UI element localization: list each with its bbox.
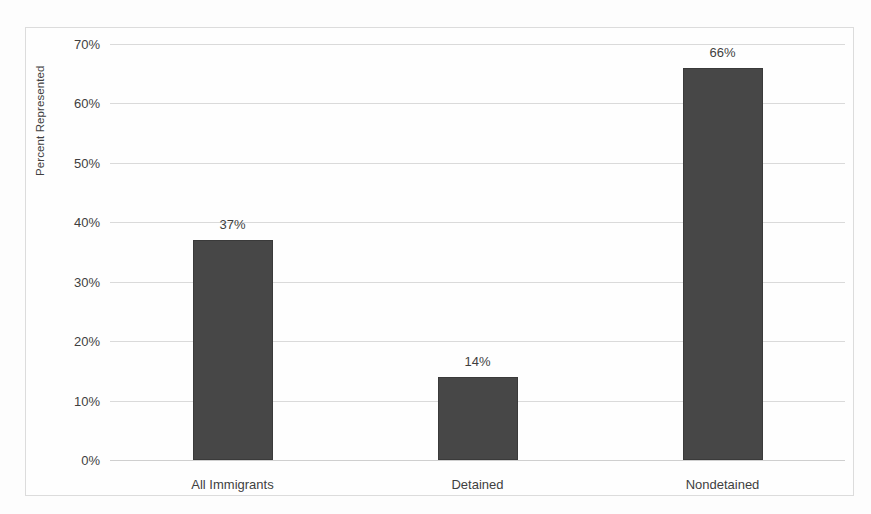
- bar-value-label: 66%: [663, 46, 783, 59]
- y-axis-tick-label: 50%: [44, 157, 100, 170]
- bar-value-label: 37%: [173, 218, 293, 231]
- bar-detained[interactable]: [438, 377, 518, 460]
- category-label: Nondetained: [633, 478, 813, 491]
- bar-nondetained[interactable]: [683, 68, 763, 460]
- category-label: All Immigrants: [143, 478, 323, 491]
- gridline: [110, 460, 845, 461]
- y-axis-tick-label: 60%: [44, 97, 100, 110]
- y-axis-tick-labels: 0%10%20%30%40%50%60%70%: [44, 44, 100, 460]
- y-axis-tick-label: 10%: [44, 395, 100, 408]
- y-axis-tick-label: 30%: [44, 276, 100, 289]
- bar-all-immigrants[interactable]: [193, 240, 273, 460]
- bar-value-label: 14%: [418, 355, 538, 368]
- y-axis-tick-label: 70%: [44, 38, 100, 51]
- category-label: Detained: [388, 478, 568, 491]
- y-axis-tick-label: 20%: [44, 335, 100, 348]
- y-axis-tick-label: 40%: [44, 216, 100, 229]
- bar-chart: Percent Represented 0%10%20%30%40%50%60%…: [0, 0, 871, 514]
- y-axis-tick-label: 0%: [44, 454, 100, 467]
